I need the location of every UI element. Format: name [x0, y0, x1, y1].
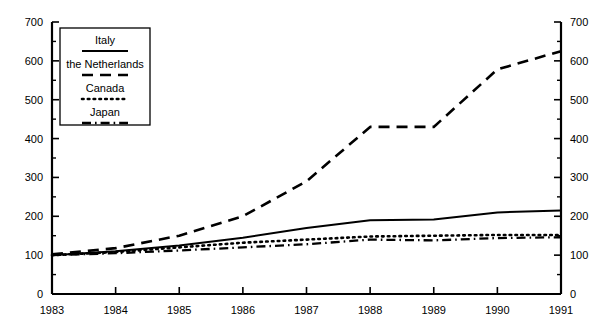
y-tick-label-right: 700 — [570, 16, 588, 28]
y-tick-label-right: 0 — [570, 288, 576, 300]
x-tick-label: 1986 — [231, 304, 255, 316]
y-tick-label-right: 500 — [570, 94, 588, 106]
x-tick-label: 1990 — [485, 304, 509, 316]
legend-label-japan: Japan — [90, 106, 120, 118]
y-tick-label-left: 300 — [25, 171, 43, 183]
series-line-italy — [52, 210, 561, 255]
y-tick-label-left: 400 — [25, 133, 43, 145]
y-tick-label-right: 400 — [570, 133, 588, 145]
legend-label-the-netherlands: the Netherlands — [66, 58, 144, 70]
x-tick-label: 1988 — [358, 304, 382, 316]
x-tick-label: 1983 — [40, 304, 64, 316]
x-tick-label: 1991 — [549, 304, 573, 316]
x-tick-label: 1989 — [422, 304, 446, 316]
y-tick-label-right: 300 — [570, 171, 588, 183]
line-chart: 0010010020020030030040040050050060060070… — [0, 0, 591, 331]
x-tick-label: 1985 — [167, 304, 191, 316]
y-tick-label-left: 100 — [25, 249, 43, 261]
y-tick-label-right: 200 — [570, 210, 588, 222]
legend-label-italy: Italy — [95, 34, 116, 46]
legend-label-canada: Canada — [86, 82, 125, 94]
chart-container: 0010010020020030030040040050050060060070… — [0, 0, 591, 331]
y-tick-label-left: 0 — [37, 288, 43, 300]
y-tick-label-left: 600 — [25, 55, 43, 67]
x-tick-label: 1984 — [103, 304, 127, 316]
y-tick-label-right: 100 — [570, 249, 588, 261]
y-tick-label-left: 500 — [25, 94, 43, 106]
y-tick-label-right: 600 — [570, 55, 588, 67]
x-tick-label: 1987 — [294, 304, 318, 316]
y-tick-label-left: 200 — [25, 210, 43, 222]
y-tick-label-left: 700 — [25, 16, 43, 28]
